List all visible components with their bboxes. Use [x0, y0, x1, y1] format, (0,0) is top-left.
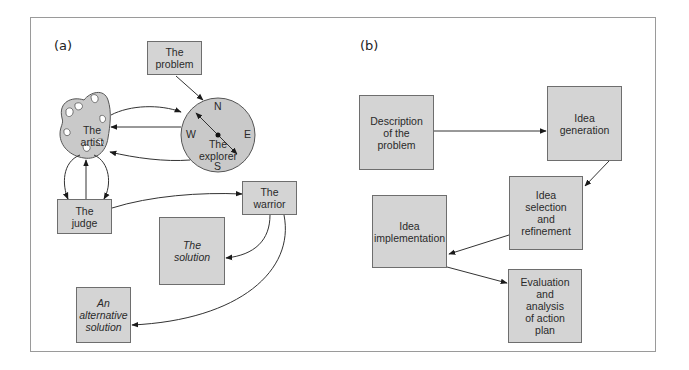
node-the-warrior: The warrior	[242, 181, 297, 215]
compass-north-label: N	[214, 100, 222, 112]
node-idea-implementation: Idea implementation	[372, 195, 447, 268]
node-idea-generation: Idea generation	[547, 86, 622, 161]
panel-a-label: (a)	[54, 38, 72, 53]
node-the-solution: The solution	[159, 217, 225, 285]
panel-b-label: (b)	[360, 38, 378, 53]
node-alternative-solution: An alternative solution	[76, 287, 131, 343]
compass-west-label: W	[186, 128, 196, 140]
node-evaluation: Evaluation and analysis of action plan	[508, 269, 582, 343]
node-the-explorer: The explorer	[196, 138, 240, 162]
node-the-problem: The problem	[147, 41, 202, 75]
node-the-judge: The judge	[57, 199, 112, 234]
node-description-of-problem: Description of the problem	[359, 95, 434, 170]
node-idea-selection: Idea selection and refinement	[509, 176, 583, 250]
node-the-artist: The artist	[74, 124, 110, 148]
compass-east-label: E	[244, 128, 251, 140]
compass-south-label: S	[214, 160, 221, 172]
